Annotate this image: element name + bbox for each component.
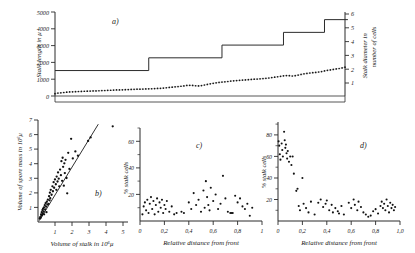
panel-d-ytick-80: 80 [266,132,272,138]
panel-d-label: d) [360,141,367,150]
panel-b-xtick-1: 1 [54,229,57,235]
panel-b-xtick-5: 5 [122,229,125,235]
panel-a-label: a) [112,17,119,26]
panel-b-ylabel: Volume of spore mass in 10⁶μ [16,132,23,210]
panel-a-ylabel-left: Stalk length in μ [35,32,43,78]
panel-a-ytick-r4: 4 [351,38,354,45]
panel-c-xtick-0: 0 [139,228,142,234]
panel-b-xlabel: Volume of stalk in 10⁶μ [51,240,114,247]
panel-d-ylabel: % stalk cells [260,155,267,188]
panel-a-ytick-0: 0 [46,93,50,100]
panel-a-ytick-r5: 5 [351,24,354,31]
panel-c: 20 40 60 0 0,2 0,4 0,6 0,8 1 % stalk cel… [122,128,264,246]
panel-b-xticks [55,222,123,226]
panel-c-xtick-04: 0,4 [185,228,192,234]
panel-a-left-ticks [51,12,55,96]
panel-b-xtick-4: 4 [105,229,108,235]
panel-a: 0 1000 2000 3000 4000 5000 1 2 3 4 5 6 S… [35,9,377,103]
panel-b-ytick-2: 2 [29,190,32,196]
panel-d-xtick-04: 0,4 [323,228,330,234]
panel-c-xtick-08: 0,8 [234,228,241,234]
panel-a-ytick-4000: 4000 [37,25,50,32]
panel-d-xtick-10: 1,0 [396,228,403,234]
panel-c-xlabel: Relative distance from front [162,239,240,246]
panel-c-ytick-60: 60 [128,139,134,145]
panel-b-ytick-4: 4 [29,161,32,167]
panel-d-xlabel: Relative distance from front [300,239,378,246]
panel-d-ytick-20: 20 [266,197,272,203]
panel-a-ytick-r3: 3 [350,52,354,59]
panel-d-xtick-08: 0,8 [372,228,379,234]
panel-a-ytick-5000: 5000 [37,9,50,16]
panel-b: 1 2 3 4 5 6 7 1 2 3 4 5 Volume of spore … [16,117,128,247]
panel-a-ytick-r1: 1 [351,79,354,86]
panel-b-xtick-3: 3 [87,229,91,235]
panel-d-xtick-06: 0,6 [348,228,355,234]
panel-c-ytick-20: 20 [128,192,134,198]
panel-d-yticks [274,124,278,210]
panel-d-xtick-0: 0 [277,228,280,234]
panel-b-yticks [34,120,38,207]
panel-b-ytick-7: 7 [29,117,33,123]
panel-d-ytick-40: 40 [266,175,272,181]
panel-c-xtick-1: 1 [261,228,264,234]
panel-c-xtick-02: 0,2 [161,228,168,234]
panel-b-ytick-6: 6 [29,132,32,138]
panel-c-points [141,175,253,217]
panel-c-yticks [136,128,140,208]
panel-a-ylabel-right: Stalk diameter in number of cells [361,26,377,78]
panel-d-xticks [278,221,400,225]
panel-b-points [39,125,114,220]
panel-b-regression-line [39,124,98,220]
panel-d-xtick-02: 0,2 [299,228,306,234]
panel-b-ytick-3: 3 [28,176,32,182]
panel-c-xtick-06: 0,6 [210,228,217,234]
panel-c-ylabel: % stalk cells [122,161,129,194]
panel-a-ytick-r2: 2 [351,66,354,73]
panel-c-ytick-40: 40 [128,165,134,171]
panel-d-ytick-60: 60 [266,154,272,160]
panel-b-ytick-1: 1 [29,205,32,211]
panel-a-step-series [55,20,348,71]
panel-b-xtick-2: 2 [71,229,74,235]
panel-d-points [278,131,397,218]
panel-c-label: c) [196,141,203,150]
panel-a-ytick-r6: 6 [351,10,355,17]
panel-a-right-ticks [345,14,349,83]
figure-root: 0 1000 2000 3000 4000 5000 1 2 3 4 5 6 S… [0,0,415,253]
panel-b-label: b) [95,189,102,198]
panel-c-xticks [140,221,262,225]
panel-d: 20 40 60 80 0 0,2 0,4 0,6 0,8 1,0 % stal… [260,122,404,246]
panel-b-ytick-5: 5 [29,146,32,152]
